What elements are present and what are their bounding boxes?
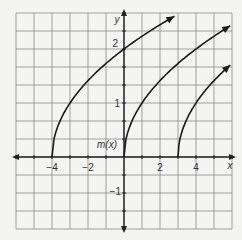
y-tick-label: 1 bbox=[114, 98, 120, 109]
curve-2 bbox=[178, 65, 230, 157]
curve-arrow-icon bbox=[222, 26, 231, 33]
x-tick-label: 4 bbox=[193, 162, 199, 173]
function-label-m: m(x) bbox=[97, 139, 117, 150]
y-tick-label: 2 bbox=[112, 38, 118, 49]
x-tick-label: 2 bbox=[157, 162, 163, 173]
curves bbox=[52, 16, 230, 157]
x-axis-label: x bbox=[227, 160, 234, 171]
x-tick-label: −4 bbox=[46, 162, 58, 173]
y-axis-label: y bbox=[114, 14, 121, 25]
x-tick-label: −2 bbox=[82, 162, 94, 173]
y-tick-label: −1 bbox=[110, 186, 122, 197]
chart: −4−22421−1xym(x) bbox=[0, 0, 242, 240]
